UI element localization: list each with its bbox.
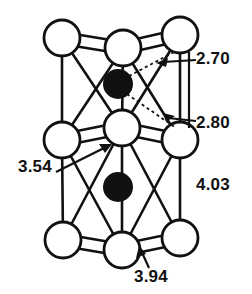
- distance-label-2-70: 2.70: [196, 50, 230, 67]
- distance-label-3-54: 3.54: [18, 158, 52, 175]
- open-atom-mid-center: [104, 110, 140, 146]
- filled-atom-lower: [104, 173, 132, 201]
- distance-label-2-80: 2.80: [196, 114, 230, 131]
- open-atom-bottom-right: [162, 220, 198, 256]
- distance-label-3-94: 3.94: [134, 268, 168, 285]
- crystal-structure-diagram: [0, 0, 252, 294]
- open-atom-mid-left: [44, 122, 80, 158]
- open-atom-top-left: [44, 20, 80, 56]
- open-atom-top-right: [162, 17, 198, 53]
- leader-line-2-70: [163, 60, 196, 62]
- open-atom-bottom-left: [45, 222, 81, 258]
- distance-label-4-03: 4.03: [196, 176, 230, 193]
- open-atom-mid-right: [162, 122, 198, 158]
- leader-line-2-80: [168, 118, 196, 121]
- open-atom-bottom-center: [104, 232, 140, 268]
- open-atom-top-center: [105, 30, 141, 66]
